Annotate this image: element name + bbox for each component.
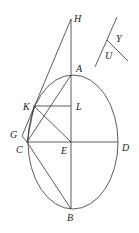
segment-KE	[34, 106, 71, 142]
label-D: D	[121, 142, 130, 153]
label-U: U	[105, 50, 113, 61]
label-A: A	[75, 63, 83, 74]
label-G: G	[10, 129, 17, 140]
label-B: B	[67, 212, 73, 223]
geometry-diagram: H A K L G C E D B Y U	[0, 0, 139, 233]
label-L: L	[75, 101, 82, 112]
segment-GC	[22, 136, 27, 142]
label-C: C	[16, 144, 23, 155]
label-E: E	[60, 145, 67, 156]
label-Y: Y	[116, 33, 123, 44]
label-K: K	[22, 101, 31, 112]
diagram-svg: H A K L G C E D B Y U	[0, 0, 139, 233]
label-H: H	[73, 13, 82, 24]
